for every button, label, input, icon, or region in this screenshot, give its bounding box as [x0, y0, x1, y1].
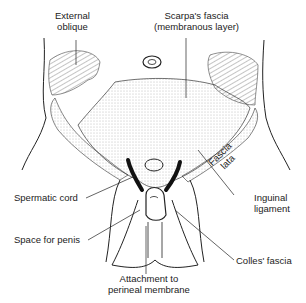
body-outline-left: [22, 38, 46, 170]
label-attachment-perineal-membrane: Attachment to perineal membrane: [108, 273, 190, 295]
space-for-penis: [146, 188, 166, 221]
label-colles-fascia: Colles' fascia: [236, 255, 292, 266]
external-oblique-left: [49, 51, 100, 95]
label-space-for-penis: Space for penis: [14, 234, 80, 245]
label-inguinal-ligament: Inguinal ligament: [254, 192, 290, 214]
label-spermatic-cord: Spermatic cord: [14, 192, 78, 203]
thigh-left: [106, 180, 120, 262]
label-scarpas-fascia: Scarpa's fascia (membranous layer): [154, 10, 239, 32]
label-external-oblique: External oblique: [55, 10, 90, 32]
body-outline-right: [263, 40, 290, 170]
umbilicus: [143, 56, 161, 68]
thigh-right: [190, 180, 204, 262]
